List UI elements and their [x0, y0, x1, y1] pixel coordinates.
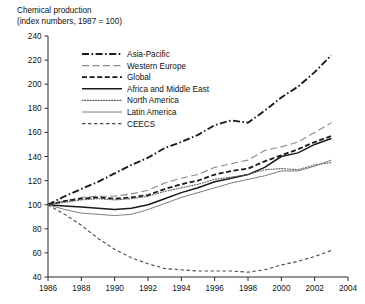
x-tick-label: 1996 [206, 284, 225, 293]
series-line-ceecs [48, 205, 331, 272]
x-tick-label: 1998 [239, 284, 258, 293]
x-tick-label: 1988 [72, 284, 91, 293]
x-tick-label: 2000 [272, 284, 291, 293]
y-tick-label: 140 [28, 153, 42, 162]
x-tick-label: 2002 [306, 284, 325, 293]
y-tick-label: 40 [32, 273, 42, 282]
chart-legend: Asia-PacificWestern EuropeGlobalAfrica a… [82, 50, 210, 129]
legend-label-ceecs: CEECS [127, 120, 156, 129]
y-tick-label: 220 [28, 56, 42, 65]
y-tick-label: 240 [28, 32, 42, 41]
y-tick-label: 120 [28, 177, 42, 186]
series-line-north-america [48, 163, 331, 205]
chart-plot-area: 406080100120140160180200220240 198619881… [0, 0, 365, 304]
legend-label-africa-and-middle-east: Africa and Middle East [127, 85, 210, 94]
y-tick-label: 180 [28, 104, 42, 113]
y-tick-label: 80 [32, 225, 42, 234]
legend-label-global: Global [127, 73, 151, 82]
y-axis: 406080100120140160180200220240 [28, 32, 48, 282]
legend-label-western-europe: Western Europe [127, 62, 186, 71]
legend-label-asia-pacific: Asia-Pacific [127, 50, 170, 59]
chemical-production-chart: Chemical production (index numbers, 1987… [0, 0, 365, 304]
series-line-global [48, 136, 331, 205]
x-tick-label: 1992 [139, 284, 158, 293]
legend-label-north-america: North America [127, 96, 179, 105]
legend-label-latin-america: Latin America [127, 108, 177, 117]
x-tick-label: 1986 [39, 284, 58, 293]
x-tick-label: 2004 [339, 284, 358, 293]
series-line-western-europe [48, 123, 331, 205]
y-tick-label: 100 [28, 201, 42, 210]
y-tick-label: 60 [32, 249, 42, 258]
y-tick-label: 160 [28, 128, 42, 137]
y-tick-label: 200 [28, 80, 42, 89]
x-axis: 1986198819901992199419961998200020022004 [39, 277, 358, 293]
x-tick-label: 1990 [106, 284, 125, 293]
x-tick-label: 1994 [172, 284, 191, 293]
